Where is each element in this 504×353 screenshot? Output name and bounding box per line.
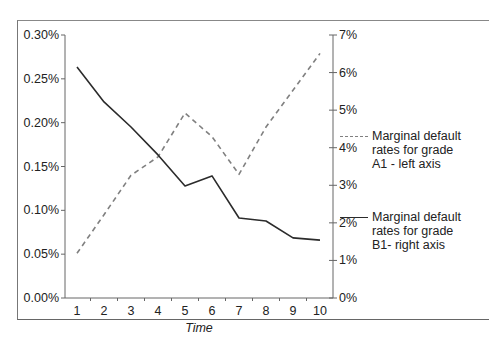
series-a1-line <box>77 53 320 253</box>
dual-axis-line-chart: 0.00%0.05%0.10%0.15%0.20%0.25%0.30%0%1%2… <box>0 0 504 353</box>
x-axis-tick-label: 6 <box>209 304 216 318</box>
right-axis-tick-label: 1% <box>339 253 357 267</box>
right-axis-tick-label: 6% <box>339 66 357 80</box>
right-axis-tick-label: 4% <box>339 141 357 155</box>
solid-line-swatch-icon <box>340 217 368 218</box>
right-axis-tick-label: 5% <box>339 103 357 117</box>
figure-caption-cropped <box>14 342 314 353</box>
left-axis-tick-label: 0.05% <box>24 247 59 261</box>
series-b1-line <box>77 67 320 240</box>
x-axis-tick-label: 7 <box>236 304 243 318</box>
legend-label-a1: Marginal default rates for grade A1 - le… <box>372 129 502 171</box>
x-axis-tick-label: 2 <box>101 304 108 318</box>
left-axis-tick-label: 0.30% <box>24 28 59 42</box>
left-axis-tick-label: 0.25% <box>24 72 59 86</box>
right-axis-tick-label: 7% <box>339 28 357 42</box>
left-axis-tick-label: 0.15% <box>24 160 59 174</box>
x-axis-tick-label: 5 <box>182 304 189 318</box>
x-axis-title: Time <box>185 321 213 335</box>
x-axis-tick-label: 3 <box>128 304 135 318</box>
x-axis-tick-label: 8 <box>263 304 270 318</box>
dashed-line-swatch-icon <box>340 136 368 137</box>
right-axis-tick-label: 0% <box>339 291 357 305</box>
x-axis-tick-label: 10 <box>313 304 327 318</box>
x-axis-tick-label: 1 <box>74 304 81 318</box>
right-axis-tick-label: 3% <box>339 178 357 192</box>
left-axis-tick-label: 0.10% <box>24 203 59 217</box>
left-axis-tick-label: 0.00% <box>24 291 59 305</box>
x-axis-tick-label: 4 <box>155 304 162 318</box>
left-axis-tick-label: 0.20% <box>24 116 59 130</box>
legend-label-b1: Marginal default rates for grade B1- rig… <box>372 210 502 252</box>
x-axis-tick-label: 9 <box>290 304 297 318</box>
